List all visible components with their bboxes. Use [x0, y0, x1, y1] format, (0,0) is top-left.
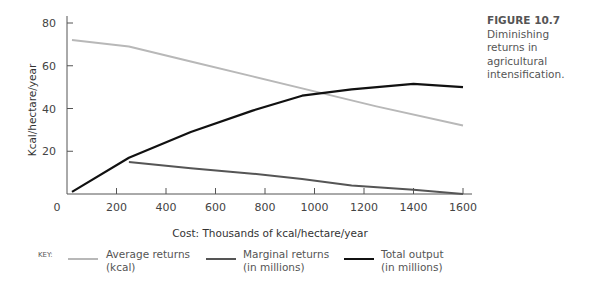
y-axis-title: Kcal/hectare/year [26, 63, 38, 156]
legend-swatch-average [68, 258, 98, 260]
legend-item-average: Average returns (kcal) [106, 248, 190, 274]
legend-item-marginal: Marginal returns (in millions) [243, 248, 329, 274]
series-line-1 [129, 162, 463, 194]
x-tick-label: 1600 [449, 201, 477, 214]
x-tick-label: 800 [255, 201, 276, 214]
x-axis-title: Cost: Thousands of kcal/hectare/year [172, 227, 368, 239]
legend-swatch-total [344, 258, 374, 260]
x-tick-label: 600 [205, 201, 226, 214]
x-tick-label: 1200 [350, 201, 378, 214]
x-tick-label: 1400 [400, 201, 428, 214]
key-title: KEY: [38, 251, 53, 259]
legend-item-total: Total output (in millions) [381, 248, 444, 274]
x-tick-label: 400 [156, 201, 177, 214]
y-tick-label: 20 [42, 145, 56, 158]
series-lines [72, 40, 463, 194]
legend-swatch-marginal [206, 258, 236, 260]
y-tick-label: 60 [42, 60, 56, 73]
figure-description: Diminishing returns in agricultural inte… [487, 28, 587, 82]
x-tick-label: 1000 [301, 201, 329, 214]
series-line-0 [72, 40, 463, 126]
x-tick-label: 200 [106, 201, 127, 214]
figure-caption: FIGURE 10.7 Diminishing returns in agric… [487, 14, 587, 82]
x-tick-label: 0 [54, 201, 61, 214]
y-tick-label: 40 [42, 103, 56, 116]
figure-number: FIGURE 10.7 [487, 14, 587, 28]
y-tick-label: 80 [42, 17, 56, 30]
